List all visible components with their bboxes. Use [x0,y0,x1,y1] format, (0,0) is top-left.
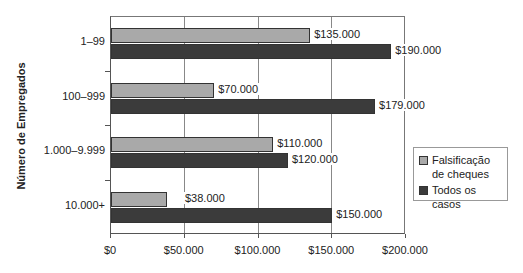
x-tick-label: $0 [104,244,116,256]
legend-swatch-dark [419,186,428,195]
value-label: $38.000 [184,192,226,204]
bar-falsificacao [111,137,273,152]
plot-area [110,16,405,234]
y-axis-title-text: Número de Empregados [15,62,27,189]
legend-label: Falsificação [432,153,490,167]
x-tick-label: $150.000 [308,244,354,256]
bar-todos-casos [111,44,391,59]
bar-todos-casos [111,153,288,168]
legend-label-cont: de cheques [432,167,490,181]
y-tick-mark [105,71,110,72]
value-label: $135.000 [313,28,361,40]
bar-todos-casos [111,208,332,223]
value-label: $70.000 [217,83,259,95]
x-tick-mark [258,234,259,238]
x-tick-mark [331,234,332,238]
value-label: $150.000 [335,208,383,220]
x-tick-mark [184,234,185,238]
legend-label: Todos os casos [432,183,507,211]
legend: Falsificação de cheques Todos os casos [413,147,508,201]
category-label: 1–99 [81,35,105,47]
bar-todos-casos [111,99,375,114]
value-label: $190.000 [394,44,442,56]
y-tick-mark [105,180,110,181]
value-label: $179.000 [378,99,426,111]
x-tick-label: $50.000 [164,244,204,256]
x-tick-label: $200.000 [382,244,428,256]
legend-item-falsificacao: Falsificação de cheques [419,153,490,181]
x-tick-mark [110,234,111,238]
y-tick-mark [105,125,110,126]
value-label: $120.000 [291,153,339,165]
x-tick-mark [405,234,406,238]
category-label: 100–999 [62,90,105,102]
x-tick-label: $100.000 [235,244,281,256]
legend-swatch-light [419,156,428,165]
category-label: 10.000+ [65,199,105,211]
y-axis-title: Número de Empregados [12,16,30,236]
category-label: 1.000–9.999 [44,144,105,156]
bar-falsificacao [111,83,214,98]
value-label: $110.000 [276,137,323,149]
legend-item-todos: Todos os casos [419,183,507,211]
bar-falsificacao [111,28,310,43]
bar-falsificacao [111,192,167,207]
